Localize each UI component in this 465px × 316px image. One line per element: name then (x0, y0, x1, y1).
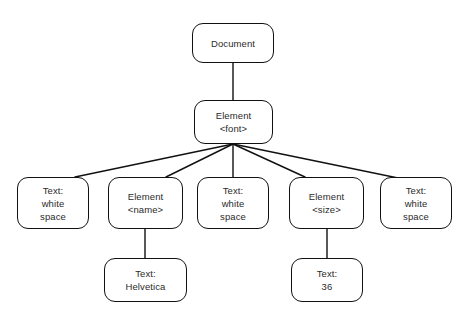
edge-element-font-to-element-name (166, 144, 233, 177)
edge-element-font-to-element-size (233, 144, 305, 177)
dom-tree-diagram: DocumentElement<font>Text:whitespaceElem… (0, 0, 465, 316)
node-label: Text: (406, 184, 427, 197)
node-text-36: Text:36 (291, 258, 363, 302)
node-label: 36 (322, 280, 333, 293)
node-label: space (40, 210, 66, 223)
node-label: white (222, 197, 245, 210)
node-label: white (42, 197, 65, 210)
node-element-size: Element<size> (289, 177, 364, 229)
node-text-ws-2: Text:whitespace (197, 177, 269, 229)
node-text-ws-1: Text:whitespace (17, 177, 89, 229)
edge-element-font-to-text-ws-3 (233, 144, 398, 178)
node-label: <font> (220, 122, 248, 135)
node-label: Text: (223, 184, 244, 197)
node-text-ws-3: Text:whitespace (380, 177, 452, 229)
node-label: <name> (128, 203, 163, 216)
node-label: Element (128, 190, 164, 203)
node-document: Document (192, 23, 274, 63)
node-label: Text: (43, 184, 64, 197)
node-element-font: Element<font> (194, 100, 273, 144)
node-label: Helvetica (126, 280, 166, 293)
node-label: <size> (312, 203, 341, 216)
node-label: white (405, 197, 428, 210)
edge-element-font-to-text-ws-1 (75, 144, 233, 177)
node-label: Document (211, 37, 255, 50)
node-text-helvetica: Text:Helvetica (104, 258, 187, 302)
node-label: space (403, 210, 429, 223)
node-label: Element (309, 190, 345, 203)
node-label: Text: (135, 267, 156, 280)
node-label: Text: (317, 267, 338, 280)
node-label: Element (216, 109, 252, 122)
node-element-name: Element<name> (108, 177, 183, 229)
node-label: space (220, 210, 246, 223)
